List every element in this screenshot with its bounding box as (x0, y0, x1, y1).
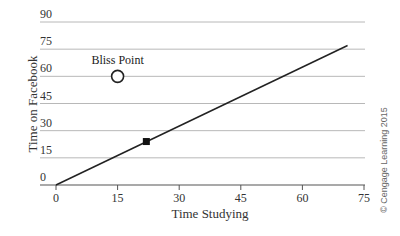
x-tick-label: 60 (296, 191, 308, 205)
x-tick-label: 15 (112, 191, 124, 205)
y-tick-label: 90 (40, 7, 52, 21)
chart: 0153045607590 01530456075 Bliss Point Ti… (0, 0, 400, 236)
gridlines (40, 22, 365, 158)
copyright-credit: © Cengage Learning 2015 (379, 107, 389, 213)
data-points: Bliss Point (91, 53, 149, 145)
choice-point-marker (143, 138, 150, 145)
y-tick-label: 45 (40, 89, 52, 103)
x-tick-label: 75 (358, 191, 370, 205)
x-axis-label: Time Studying (171, 206, 249, 221)
y-tick-label: 30 (40, 116, 52, 130)
y-tick-label: 15 (40, 143, 52, 157)
x-tick-label: 45 (235, 191, 247, 205)
bliss-point-label: Bliss Point (91, 53, 144, 67)
y-tick-label: 60 (40, 61, 52, 75)
x-tick-label: 0 (53, 191, 59, 205)
y-tick-label: 0 (40, 170, 46, 184)
x-axis (40, 185, 365, 190)
x-tick-label: 30 (173, 191, 185, 205)
x-tick-labels: 01530456075 (53, 191, 370, 205)
bliss-point-marker (112, 70, 124, 82)
y-tick-label: 75 (40, 34, 52, 48)
y-axis-label: Time on Facebook (25, 55, 40, 153)
